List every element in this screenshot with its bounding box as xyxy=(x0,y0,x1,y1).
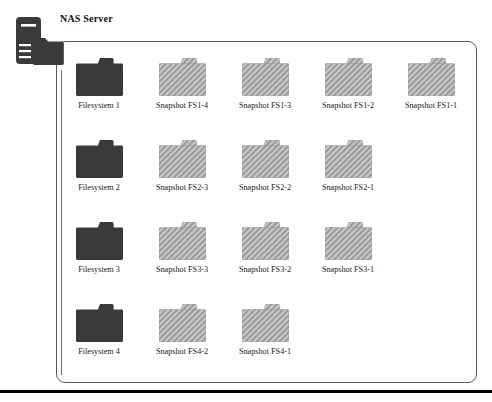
filesystem-grid: Filesystem 1Snapshot FS1-4Snapshot FS1-3… xyxy=(0,0,492,402)
node-label: Snapshot FS1-1 xyxy=(389,101,473,111)
folder-icon xyxy=(223,58,307,96)
snapshot-node[interactable]: Snapshot FS3-1 xyxy=(306,222,390,275)
node-label: Snapshot FS3-1 xyxy=(306,265,390,275)
node-label: Filesystem 2 xyxy=(57,183,141,193)
filesystem-node[interactable]: Filesystem 1 xyxy=(57,58,141,111)
node-label: Snapshot FS1-2 xyxy=(306,101,390,111)
node-label: Snapshot FS4-1 xyxy=(223,347,307,357)
filesystem-node[interactable]: Filesystem 4 xyxy=(57,304,141,357)
node-label: Snapshot FS2-3 xyxy=(140,183,224,193)
folder-icon xyxy=(306,58,390,96)
folder-icon xyxy=(140,58,224,96)
snapshot-node[interactable]: Snapshot FS2-1 xyxy=(306,140,390,193)
folder-icon xyxy=(57,58,141,96)
filesystem-node[interactable]: Filesystem 2 xyxy=(57,140,141,193)
folder-icon xyxy=(140,140,224,178)
node-label: Snapshot FS2-1 xyxy=(306,183,390,193)
node-label: Snapshot FS1-3 xyxy=(223,101,307,111)
folder-icon xyxy=(223,222,307,260)
snapshot-node[interactable]: Snapshot FS2-2 xyxy=(223,140,307,193)
snapshot-node[interactable]: Snapshot FS1-4 xyxy=(140,58,224,111)
folder-icon xyxy=(223,140,307,178)
filesystem-node[interactable]: Filesystem 3 xyxy=(57,222,141,275)
folder-icon xyxy=(57,222,141,260)
node-label: Filesystem 4 xyxy=(57,347,141,357)
folder-icon xyxy=(223,304,307,342)
snapshot-node[interactable]: Snapshot FS3-2 xyxy=(223,222,307,275)
snapshot-node[interactable]: Snapshot FS2-3 xyxy=(140,140,224,193)
snapshot-node[interactable]: Snapshot FS4-1 xyxy=(223,304,307,357)
bottom-divider xyxy=(0,390,492,393)
snapshot-node[interactable]: Snapshot FS1-3 xyxy=(223,58,307,111)
node-label: Snapshot FS3-3 xyxy=(140,265,224,275)
folder-icon xyxy=(140,222,224,260)
node-label: Snapshot FS2-2 xyxy=(223,183,307,193)
node-label: Snapshot FS3-2 xyxy=(223,265,307,275)
folder-icon xyxy=(57,140,141,178)
folder-icon xyxy=(306,140,390,178)
snapshot-node[interactable]: Snapshot FS1-1 xyxy=(389,58,473,111)
node-label: Snapshot FS4-2 xyxy=(140,347,224,357)
node-label: Filesystem 1 xyxy=(57,101,141,111)
snapshot-node[interactable]: Snapshot FS1-2 xyxy=(306,58,390,111)
folder-icon xyxy=(389,58,473,96)
diagram-canvas: NAS Server Filesystem 1Snapshot FS1-4Sna… xyxy=(0,0,492,402)
folder-icon xyxy=(57,304,141,342)
snapshot-node[interactable]: Snapshot FS3-3 xyxy=(140,222,224,275)
snapshot-node[interactable]: Snapshot FS4-2 xyxy=(140,304,224,357)
node-label: Filesystem 3 xyxy=(57,265,141,275)
node-label: Snapshot FS1-4 xyxy=(140,101,224,111)
folder-icon xyxy=(140,304,224,342)
folder-icon xyxy=(306,222,390,260)
